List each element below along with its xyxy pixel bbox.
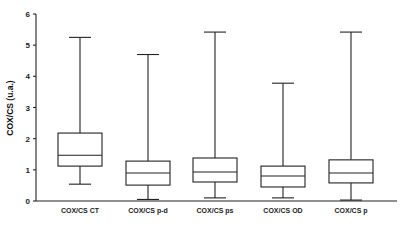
y-tick-label: 0	[26, 197, 31, 206]
y-tick-label: 3	[26, 104, 31, 113]
y-axis-title: COX/CS (u.a.)	[5, 80, 15, 135]
y-axis: 0123456	[26, 10, 36, 206]
box-cox-cs-p	[329, 32, 373, 200]
y-tick-label: 2	[26, 135, 31, 144]
box-plot-chart: 0123456 COX/CS CTCOX/CS p-dCOX/CS psCOX/…	[0, 0, 412, 227]
iqr-box	[329, 160, 373, 183]
x-category-label: COX/CS p-d	[128, 207, 168, 215]
box-cox-cs-od	[261, 83, 305, 198]
x-category-label: COX/CS ps	[197, 207, 234, 215]
y-tick-label: 1	[26, 166, 31, 175]
y-tick-label: 4	[26, 72, 31, 81]
y-tick-label: 6	[26, 10, 31, 19]
box-series	[58, 32, 373, 200]
y-tick-label: 5	[26, 41, 31, 50]
x-category-label: COX/CS OD	[263, 207, 302, 214]
box-cox-cs-ct	[58, 37, 102, 184]
x-axis: COX/CS CTCOX/CS p-dCOX/CS psCOX/CS ODCOX…	[36, 201, 397, 215]
box-cox-cs-ps	[193, 32, 237, 198]
x-category-label: COX/CS p	[334, 207, 367, 215]
box-cox-cs-p-d	[126, 55, 170, 200]
x-category-label: COX/CS CT	[61, 207, 100, 214]
iqr-box	[58, 133, 102, 166]
iqr-box	[193, 158, 237, 182]
